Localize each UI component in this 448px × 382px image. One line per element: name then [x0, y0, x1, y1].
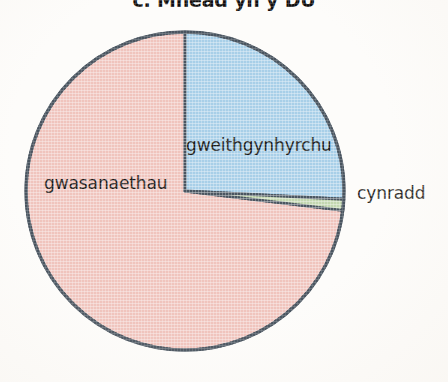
slice-label-gweithgynhyrchu: gweithgynhyrchu [186, 135, 332, 155]
slice-label-gwasanaethau: gwasanaethau [44, 173, 167, 193]
pie-chart-figure: c. Mhead yn y DU gweithgynhyrchu gwasana… [0, 0, 448, 382]
slice-label-cynradd: cynradd [357, 183, 425, 203]
